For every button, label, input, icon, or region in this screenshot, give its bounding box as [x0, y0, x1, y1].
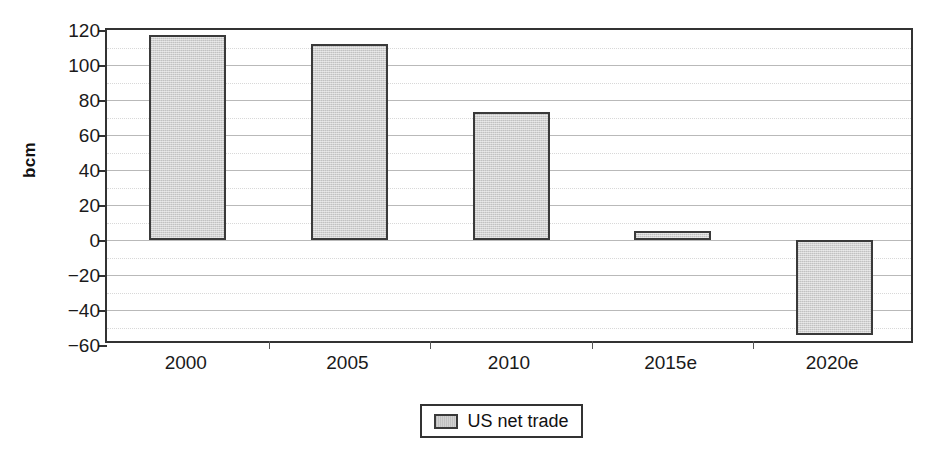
- y-tick-label: 40: [79, 161, 100, 180]
- gridline: [107, 240, 911, 241]
- y-tick-label: 0: [89, 231, 100, 250]
- y-tick-label: 20: [79, 196, 100, 215]
- chart-page: bcm 120100806040200−20−40−60 20002005201…: [0, 0, 933, 461]
- minor-gridline: [107, 83, 911, 84]
- legend-swatch-icon: [434, 414, 458, 429]
- gridline: [107, 100, 911, 101]
- x-tick-label: 2020e: [806, 352, 859, 374]
- y-tick-label: 120: [68, 21, 100, 40]
- y-tick-label: −40: [68, 301, 100, 320]
- x-tick-label: 2005: [326, 352, 368, 374]
- minor-gridline: [107, 258, 911, 259]
- y-tick-label: −60: [68, 336, 100, 355]
- x-tick-mark: [269, 341, 270, 349]
- x-tick-label: 2015e: [644, 352, 697, 374]
- minor-gridline: [107, 293, 911, 294]
- bar-2010: [473, 112, 550, 240]
- x-tick-mark: [592, 341, 593, 349]
- minor-gridline: [107, 48, 911, 49]
- y-tick-label: 60: [79, 126, 100, 145]
- gridline: [107, 275, 911, 276]
- x-tick-label: 2000: [165, 352, 207, 374]
- x-tick-mark: [430, 341, 431, 349]
- plot-area: 120100806040200−20−40−60: [105, 28, 913, 343]
- x-tick-mark: [753, 341, 754, 349]
- legend-label: US net trade: [467, 412, 568, 430]
- gridline: [107, 310, 911, 311]
- gridline: [107, 65, 911, 66]
- bar-2020e: [796, 240, 873, 335]
- minor-gridline: [107, 328, 911, 329]
- bar-2005: [311, 44, 388, 240]
- y-tick-label: 80: [79, 91, 100, 110]
- y-tick-label: −20: [68, 266, 100, 285]
- chart-legend: US net trade: [420, 404, 583, 438]
- x-tick-label: 2010: [488, 352, 530, 374]
- bar-2015e: [634, 231, 711, 240]
- y-axis-title: bcm: [20, 130, 40, 190]
- y-tick-label: 100: [68, 56, 100, 75]
- bar-2000: [149, 35, 226, 240]
